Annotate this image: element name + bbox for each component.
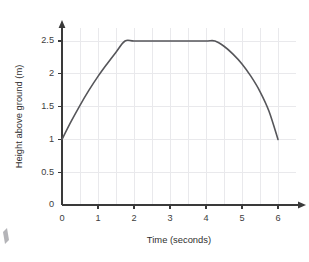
- x-axis-tick-labels: 0123456: [59, 213, 280, 223]
- x-tick-label: 4: [203, 213, 208, 223]
- page-crop-artifact: [3, 228, 9, 244]
- x-tick-label: 5: [239, 213, 244, 223]
- y-axis-arrow-icon: [59, 20, 66, 28]
- y-tick-label: 0: [49, 199, 54, 209]
- x-tick-label: 1: [95, 213, 100, 223]
- y-tick-label: 2: [49, 68, 54, 78]
- chart-container: 00.511.522.5 0123456 Time (seconds) Heig…: [0, 0, 309, 262]
- y-tick-label: 0.5: [41, 167, 54, 177]
- x-tick-label: 2: [131, 213, 136, 223]
- y-tick-label: 1: [49, 134, 54, 144]
- x-axis-title: Time (seconds): [147, 234, 211, 245]
- height-vs-time-line-chart: 00.511.522.5 0123456 Time (seconds) Heig…: [0, 0, 309, 262]
- axes: [59, 20, 306, 209]
- x-tick-label: 0: [59, 213, 64, 223]
- vertical-gridlines: [80, 28, 278, 205]
- x-tick-label: 3: [167, 213, 172, 223]
- y-tick-label: 2.5: [41, 35, 54, 45]
- y-axis-title: Height above ground (m): [13, 65, 24, 169]
- x-axis-arrow-icon: [298, 202, 306, 209]
- y-axis-tick-labels: 00.511.522.5: [41, 35, 54, 209]
- horizontal-gridlines: [62, 41, 296, 172]
- x-tick-label: 6: [275, 213, 280, 223]
- y-tick-label: 1.5: [41, 101, 54, 111]
